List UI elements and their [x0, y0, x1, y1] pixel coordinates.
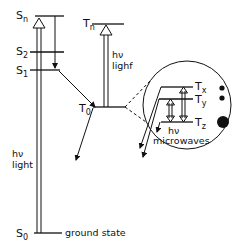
- hv-left-label: hν: [12, 148, 23, 159]
- transition-ty-tz: [167, 99, 175, 122]
- absorption-arrow-s0-sn: [33, 18, 45, 233]
- ground-state-label: ground state: [65, 227, 126, 238]
- decay-arrow-tz: [157, 122, 160, 132]
- label-tn: Tn: [82, 17, 95, 32]
- label-ty: Ty: [194, 93, 207, 108]
- decay-arrow-ty: [143, 99, 159, 157]
- population-dot-tx: [219, 85, 224, 90]
- isc-arrow-s1-t0: [59, 71, 95, 107]
- label-sn: Sn: [16, 9, 28, 24]
- zoom-line-upper: [125, 81, 150, 107]
- energy-level-diagram: Sn S2 S1 S0 hν light ground state Tn T0 …: [0, 0, 249, 251]
- light-right-label: lighf: [112, 60, 133, 71]
- label-s0: S0: [16, 227, 28, 242]
- transition-tx-tz: [180, 87, 188, 122]
- label-t0: T0: [78, 102, 91, 117]
- hv-right-label: hν: [112, 49, 123, 60]
- absorption-arrow-t0-tn: [100, 25, 112, 107]
- population-dot-ty: [219, 95, 224, 100]
- emission-arrow-t0: [76, 108, 93, 160]
- light-left-label: light: [12, 159, 33, 170]
- label-tz: Tz: [194, 116, 206, 131]
- microwaves-label: microwaves: [153, 135, 210, 146]
- label-s2: S2: [16, 45, 28, 60]
- population-dot-tz: [217, 116, 229, 128]
- label-s1: S1: [16, 64, 28, 79]
